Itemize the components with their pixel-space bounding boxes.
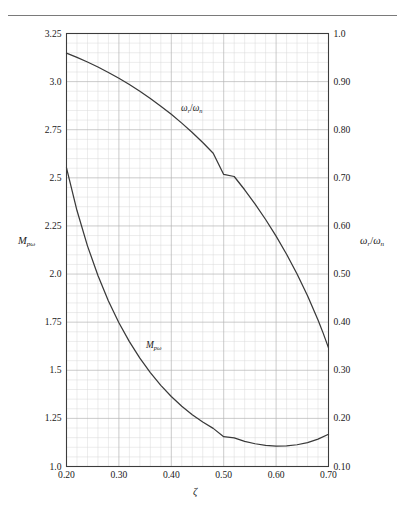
ytick-label-left-1-25: 1.25 <box>45 413 62 423</box>
ytick-label-left-3-25: 3.25 <box>45 29 62 39</box>
ytick-label-right-0-20: 0.20 <box>334 413 351 423</box>
curve2-label-base: M <box>146 340 154 350</box>
curve-omega-ratio <box>67 53 329 348</box>
figure-container: Mpω ωr/ωn ζ ωr/ωn Mpω 1.01.251.51.752.02… <box>0 0 405 524</box>
curve1-label-num: ω <box>181 103 188 113</box>
ytick-label-left-1-75: 1.75 <box>45 317 62 327</box>
ytick-label-left-2-75: 2.75 <box>45 125 62 135</box>
ytick-label-right-0-90: 0.90 <box>334 77 351 87</box>
grid-minor <box>67 34 329 467</box>
xtick-label-0-30: 0.30 <box>99 470 139 480</box>
right-axis-title-den-sub: n <box>381 240 385 248</box>
axis-frame <box>67 34 329 467</box>
xtick-label-0-50: 0.50 <box>204 470 244 480</box>
ytick-label-left-2-5: 2.5 <box>50 173 62 183</box>
xtick-label-0-60: 0.60 <box>256 470 296 480</box>
curve2-label-sub: pω <box>154 344 162 351</box>
ytick-label-left-2-0: 2.0 <box>50 269 62 279</box>
ytick-label-right-0-30: 0.30 <box>334 365 351 375</box>
ytick-label-right-0-40: 0.40 <box>334 317 351 327</box>
curve1-label-den-sub: n <box>199 107 202 114</box>
ytick-label-right-0-60: 0.60 <box>334 221 351 231</box>
ytick-label-right-0-80: 0.80 <box>334 125 351 135</box>
x-axis-title-text: ζ <box>193 486 197 497</box>
grid-major <box>67 34 329 467</box>
xtick-label-0-70: 0.70 <box>309 470 349 480</box>
ytick-label-right-1-0: 1.0 <box>334 29 346 39</box>
x-axis-title: ζ <box>193 487 197 498</box>
curve-label-mp-omega: Mpω <box>146 341 162 351</box>
ytick-label-left-1-5: 1.5 <box>50 365 62 375</box>
curve-mp-omega <box>67 168 329 446</box>
right-axis-title: ωr/ωn <box>360 236 384 248</box>
ytick-label-left-3-0: 3.0 <box>50 77 62 87</box>
ytick-label-right-0-50: 0.50 <box>334 269 351 279</box>
ytick-label-right-0-70: 0.70 <box>334 173 351 183</box>
left-axis-title-base: M <box>18 235 27 246</box>
curve-label-omega-ratio: ωr/ωn <box>181 104 203 114</box>
xtick-label-0-20: 0.20 <box>47 470 87 480</box>
left-axis-title-sub: pω <box>27 240 36 248</box>
xtick-label-0-40: 0.40 <box>151 470 191 480</box>
ytick-label-left-2-25: 2.25 <box>45 221 62 231</box>
right-axis-title-den: ω <box>373 235 380 246</box>
left-axis-title: Mpω <box>18 236 35 248</box>
